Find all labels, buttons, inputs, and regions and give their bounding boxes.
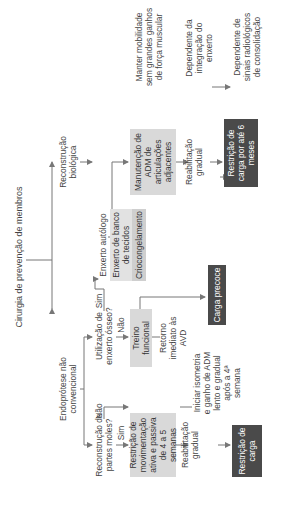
note-reabilitacao-2: Reabilitação gradual bbox=[184, 129, 204, 195]
branch-reconstrucao-biologica: Reconstrução biológica bbox=[58, 129, 78, 195]
label-sim-2: Sim bbox=[94, 291, 104, 311]
label-sim-1: Sim bbox=[116, 423, 126, 443]
box-criocongelamento: Criocongelamento bbox=[132, 209, 146, 281]
box-restricao-movimentacao: Restrição de movimentação ativa e passiv… bbox=[130, 413, 176, 477]
title: Cirurgia de prevenção de membros bbox=[14, 157, 24, 357]
box-treino-funcional: Treino funcional bbox=[130, 309, 152, 367]
box-restricao-carga: Restrição de carga bbox=[232, 425, 262, 477]
label-nao-1: Não bbox=[94, 401, 104, 421]
enxerto-autologo: Enxerto autólogo bbox=[98, 209, 108, 281]
flowchart: Cirurgia de prevenção de membros Endopró… bbox=[0, 0, 289, 507]
box-restricao-carga-6-meses: Restrição de carga por até 6 meses bbox=[224, 119, 258, 187]
label-nao-2: Não bbox=[116, 315, 126, 335]
box-enxerto-banco: Enxerto de banco de tecidos bbox=[110, 209, 132, 281]
question-soft-tissue: Reconstrução de partes moles? bbox=[94, 413, 114, 477]
note-isometria: Iniciar isometria e ganho de ADM lento e… bbox=[192, 351, 242, 415]
question-bone-graft: Utilização de enxerto ósseo? bbox=[94, 305, 114, 367]
box-manutencao-adm: Manutenção de ADM de articulações adjace… bbox=[130, 129, 176, 195]
note-reabilitacao-1: Reabilitação gradual bbox=[180, 413, 200, 477]
note-retorno-avd: Retorno imediato às AVD bbox=[158, 309, 188, 367]
note-manter-mobilidade: Manter mobilidade sem grandes ganhos de … bbox=[134, 7, 164, 87]
branch-endoprotese: Endoprótese não convencional bbox=[58, 353, 78, 425]
note-dependente-sinais: Dependente de sinais radiológicos de con… bbox=[232, 7, 262, 87]
box-carga-precoce: Carga precoce bbox=[208, 265, 226, 325]
note-dependente-integracao: Dependente da integração do enxerto bbox=[184, 13, 214, 83]
